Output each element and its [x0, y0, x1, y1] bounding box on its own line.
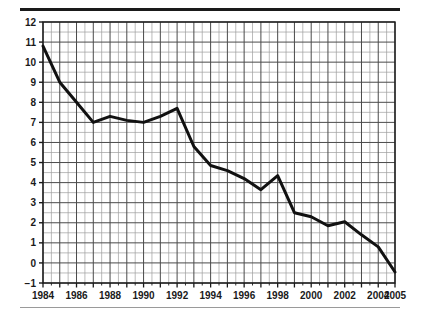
- x-axis-tick-label: 2005: [384, 290, 407, 301]
- x-axis-tick-label: 1986: [65, 290, 88, 301]
- x-axis-tick-label: 2000: [300, 290, 323, 301]
- y-axis-tick-label: 0: [30, 258, 36, 269]
- y-axis-tick-label: 8: [30, 97, 36, 108]
- x-axis-tick-label: 1996: [233, 290, 256, 301]
- x-axis-tick-label: 1990: [132, 290, 155, 301]
- y-axis-tick-label: 9: [30, 77, 36, 88]
- y-axis-tick-label: 11: [25, 37, 36, 48]
- line-chart: 1211109876543210−1 198419861988199019921…: [0, 0, 421, 317]
- y-axis-tick-labels: 1211109876543210−1: [25, 17, 37, 289]
- x-axis-tick-label: 2002: [334, 290, 357, 301]
- x-axis-tick-label: 1992: [166, 290, 189, 301]
- y-axis-tick-label: 5: [30, 157, 36, 168]
- chart-figure: 1211109876543210−1 198419861988199019921…: [0, 0, 421, 317]
- x-axis-tick-labels: 1984198619881990199219941996199820002002…: [32, 290, 407, 301]
- x-axis-tick-label: 1998: [267, 290, 290, 301]
- x-axis-tick-label: 1994: [199, 290, 222, 301]
- y-axis-tick-label: 1: [30, 237, 36, 248]
- y-axis-tick-label: 3: [30, 197, 36, 208]
- x-axis-tick-label: 1984: [32, 290, 55, 301]
- y-axis-tick-label: 10: [25, 57, 37, 68]
- y-axis-tick-label: 2: [30, 217, 36, 228]
- y-axis-tick-label: 6: [30, 137, 36, 148]
- x-axis-tick-label: 1988: [99, 290, 122, 301]
- y-axis-tick-label: −1: [25, 278, 37, 289]
- y-axis-tick-label: 4: [30, 177, 36, 188]
- y-axis-tick-label: 12: [25, 17, 37, 28]
- y-axis-tick-label: 7: [30, 117, 36, 128]
